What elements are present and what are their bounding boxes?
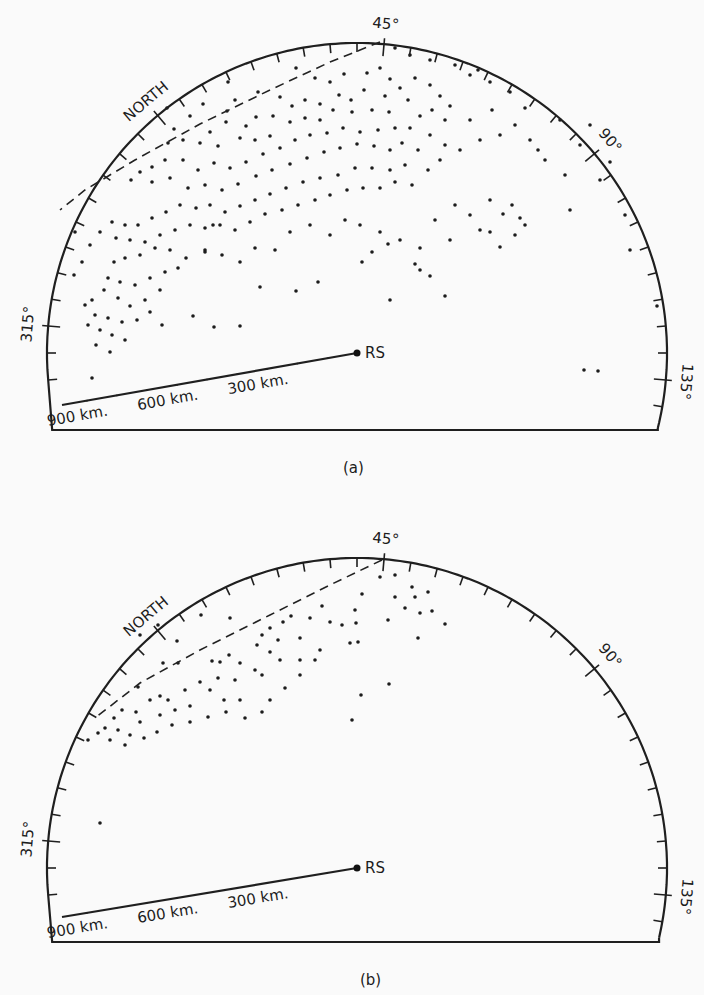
echo-dot [428,83,432,87]
echo-dot [160,323,164,327]
echo-dot [388,168,392,172]
bearing-tick [618,713,626,718]
echo-dot [284,186,288,190]
echo-dot [102,288,106,292]
echo-dot [153,246,157,250]
echo-dot [258,285,262,289]
echo-dot [260,673,264,677]
echo-dot [488,80,492,84]
echo-dot [170,723,174,727]
echo-dot [123,743,127,747]
echo-dot [268,626,272,630]
echo-dot [588,123,592,127]
bearing-tick [42,840,60,842]
echo-dot [98,328,102,332]
bearing-tick [103,690,110,695]
echo-dot [90,376,94,380]
north-label: NORTH [120,592,172,640]
bearing-tick [138,134,144,140]
echo-dot [328,620,332,624]
echo-dot [133,283,137,287]
echo-dot [350,718,354,722]
echo-dot [288,162,292,166]
echo-dot [388,77,392,81]
echo-dot [448,238,452,242]
echo-dot [188,704,192,708]
echo-dot [143,240,147,244]
echo-dot [623,213,627,217]
echo-dot [528,138,532,142]
echo-dot [340,623,344,627]
bearing-tick [484,72,488,80]
echo-dot [120,708,124,712]
echo-dot [86,738,90,742]
echo-dot [253,138,257,142]
bearing-tick [460,577,463,585]
echo-dot [273,248,277,252]
echo-dot [387,110,391,114]
echo-dot [443,118,447,122]
echo-dot [255,643,259,647]
echo-dot [513,233,517,237]
echo-dot [303,98,307,102]
echo-dot [150,216,154,220]
bearing-tick [618,198,626,203]
echo-dot [118,280,122,284]
echo-dot [155,730,159,734]
echo-dot [148,698,152,702]
bearing-tick [251,62,254,70]
echo-dot [178,203,182,207]
echo-dot [308,616,312,620]
bearing-tick [251,577,254,585]
echo-dot [161,661,165,665]
echo-dot [203,183,207,187]
echo-dot [226,80,230,84]
echo-dot [453,63,457,67]
echo-dot [426,590,430,594]
echo-dot [298,673,302,677]
echo-dot [453,203,457,207]
echo-dot [198,680,202,684]
echo-dot [418,246,422,250]
echo-dot [228,616,232,620]
echo-dot [254,115,258,119]
echo-dot [143,298,147,302]
echo-dot [370,250,374,254]
echo-dot [175,639,179,643]
echo-dot [386,618,390,622]
echo-dot [343,218,347,222]
echo-dot [218,223,222,227]
echo-dot [501,212,505,216]
echo-dot [128,304,132,308]
echo-dot [372,144,376,148]
echo-dot [216,144,220,148]
echo-dot [223,210,227,214]
bearing-label: 135° [676,363,697,401]
bearing-tick [277,54,279,63]
echo-dot [238,698,242,702]
echo-dot [328,233,332,237]
echo-dot [488,230,492,234]
echo-dot [655,304,659,308]
echo-dot [253,668,257,672]
echo-dot [378,230,382,234]
echo-dot [296,203,300,207]
echo-dot [278,95,282,99]
echo-dot [94,343,98,347]
bearing-tick [508,600,513,608]
echo-dot [313,658,317,662]
echo-dot [88,243,92,247]
bearing-tick [653,920,662,922]
echo-dot [278,146,282,150]
echo-dot [416,636,420,640]
echo-dot [166,698,170,702]
echo-dot [478,228,482,232]
echo-dot [510,203,514,207]
echo-dot [106,276,110,280]
dashed-boundary-line [95,560,382,718]
echo-dot [468,118,472,122]
station-label: RS [365,344,385,362]
echo-dot [408,126,412,130]
echo-dot [418,268,422,272]
echo-dot [370,166,374,170]
